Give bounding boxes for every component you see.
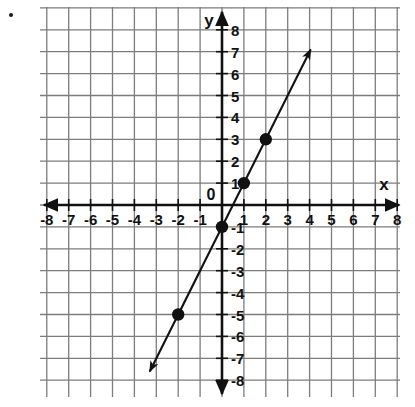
y-tick-label: 2 <box>231 153 239 170</box>
x-tick-label: -4 <box>128 211 142 228</box>
y-tick-label: 1 <box>231 175 239 192</box>
x-tick-label: -3 <box>150 211 163 228</box>
grid-lines <box>40 7 400 397</box>
x-tick-label: -7 <box>62 211 75 228</box>
x-tick-label: -6 <box>84 211 97 228</box>
x-tick-label: 8 <box>393 211 401 228</box>
x-tick-label: 2 <box>262 211 270 228</box>
x-tick-label: -8 <box>40 211 53 228</box>
y-tick-label: -8 <box>231 372 244 389</box>
plotted-point <box>216 221 228 233</box>
x-tick-label: -5 <box>106 211 119 228</box>
y-tick-label: -3 <box>231 263 244 280</box>
x-tick-label: -1 <box>193 211 206 228</box>
y-tick-label: 5 <box>231 88 239 105</box>
plotted-point <box>260 133 272 145</box>
x-tick-label: -2 <box>172 211 185 228</box>
x-tick-label: 3 <box>284 211 292 228</box>
plotted-point <box>172 308 184 320</box>
x-tick-label: 5 <box>327 211 335 228</box>
y-tick-label: 4 <box>231 109 240 126</box>
coordinate-plane-figure: -8-7-6-5-4-3-2-11234567887654321-1-2-3-4… <box>0 0 415 407</box>
y-tick-label: 3 <box>231 131 239 148</box>
y-tick-label: 8 <box>231 22 239 39</box>
y-tick-label: -5 <box>231 307 244 324</box>
y-axis-label: y <box>204 11 214 30</box>
x-tick-label: 7 <box>371 211 379 228</box>
x-axis-label: x <box>379 175 389 194</box>
origin-label: 0 <box>207 186 216 203</box>
y-tick-label: -4 <box>231 285 245 302</box>
x-tick-label: 6 <box>349 211 357 228</box>
y-tick-label: 6 <box>231 66 239 83</box>
y-tick-label: -7 <box>231 350 244 367</box>
y-tick-label: -6 <box>231 328 244 345</box>
graph-canvas: -8-7-6-5-4-3-2-11234567887654321-1-2-3-4… <box>0 0 415 407</box>
y-tick-label: -1 <box>231 219 244 236</box>
plotted-point <box>238 177 250 189</box>
y-tick-label: 7 <box>231 44 239 61</box>
x-tick-label: 4 <box>305 211 314 228</box>
y-tick-label: -2 <box>231 241 244 258</box>
